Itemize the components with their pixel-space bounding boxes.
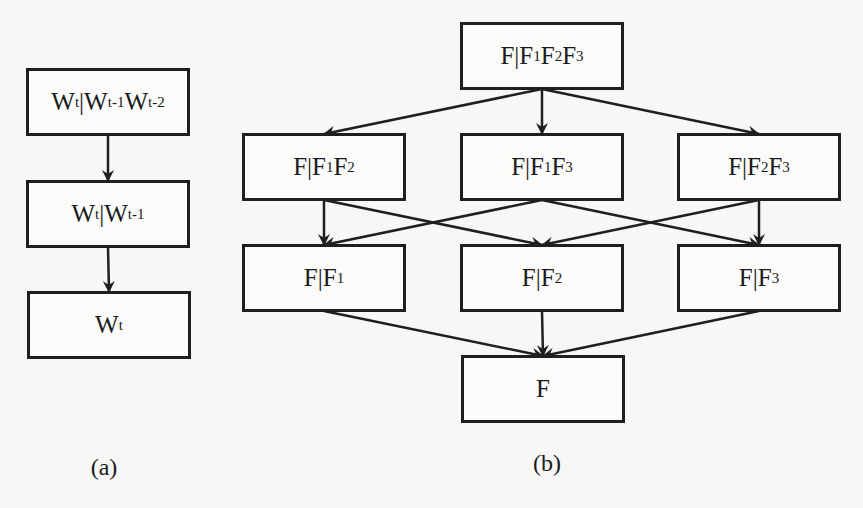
node-b23: F|F2F3 xyxy=(677,133,841,201)
arrow-group xyxy=(108,89,759,356)
node-b0: F|F1F2F3 xyxy=(460,22,624,90)
caption-a: (a) xyxy=(91,454,118,481)
arrow-a2-to-a3 xyxy=(108,247,109,292)
node-a3: Wt xyxy=(27,291,191,359)
node-b1: F|F1 xyxy=(242,244,406,312)
node-b13: F|F1F3 xyxy=(460,133,624,201)
arrow-b3-to-bF xyxy=(543,311,759,356)
node-b3: F|F3 xyxy=(677,244,841,312)
arrow-b0-to-b12 xyxy=(324,89,542,134)
caption-b: (b) xyxy=(533,450,561,477)
arrow-b1-to-bF xyxy=(324,311,543,356)
node-b2: F|F2 xyxy=(460,244,624,312)
node-a1: Wt|Wt-1Wt-2 xyxy=(26,68,190,136)
arrow-b2-to-bF xyxy=(542,311,543,356)
node-a2: Wt|Wt-1 xyxy=(26,180,190,248)
node-b12: F|F1F2 xyxy=(242,133,406,201)
arrow-b0-to-b23 xyxy=(542,89,759,134)
node-bF: F xyxy=(461,355,625,423)
